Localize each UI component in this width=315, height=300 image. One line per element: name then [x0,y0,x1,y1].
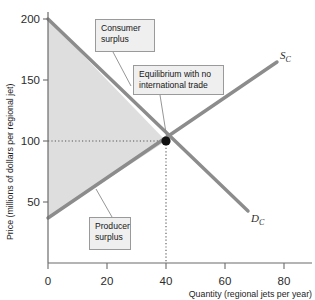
x-axis-title: Quantity (regional jets per year) [189,289,312,299]
chart-canvas: 200 150 100 50 0 20 40 60 80 Price (mill… [0,0,315,300]
consumer-surplus-leader-line [113,52,131,86]
y-tick-label-200: 200 [21,13,40,25]
supply-curve-label: SC [280,49,292,64]
consumer-surplus-callout: Consumer surplus [95,19,155,52]
supply-demand-chart: 200 150 100 50 0 20 40 60 80 Price (mill… [0,0,315,300]
producer-surplus-callout: Producer surplus [89,217,131,250]
y-tick-label-100: 100 [21,135,40,147]
producer-surplus-leader-line [96,189,112,217]
x-tick-label-60: 60 [219,275,232,287]
x-tick-label-20: 20 [101,275,114,287]
y-axis-title: Price (millions of dollars per regional … [5,83,15,240]
equilibrium-callout: Equilibrium with no international trade [133,65,224,95]
y-tick-label-50: 50 [27,196,40,208]
equilibrium-point-marker [161,136,170,145]
x-tick-label-80: 80 [278,275,291,287]
y-tick-label-150: 150 [21,74,40,86]
equilibrium-leader-line [160,95,167,139]
x-tick-label-0: 0 [45,275,51,287]
x-tick-label-40: 40 [160,275,173,287]
demand-curve-label: DC [250,212,265,227]
